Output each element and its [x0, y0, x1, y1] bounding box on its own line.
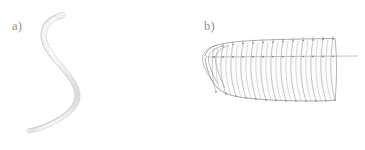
- worm-body-silhouette: [28, 13, 80, 133]
- mesh-model: [202, 36, 358, 102]
- worm-head-cap: [55, 11, 66, 20]
- figure-root: a): [0, 0, 365, 150]
- worm-photograph-graphic: [0, 0, 183, 150]
- worm-wireframe-mesh-graphic: [183, 0, 365, 150]
- panel-a: a): [0, 0, 183, 150]
- mesh-posterior-ring: [335, 38, 337, 100]
- panel-b: b): [183, 0, 365, 150]
- worm-segment-striations: [0, 0, 183, 150]
- worm-tail-tip: [27, 129, 32, 133]
